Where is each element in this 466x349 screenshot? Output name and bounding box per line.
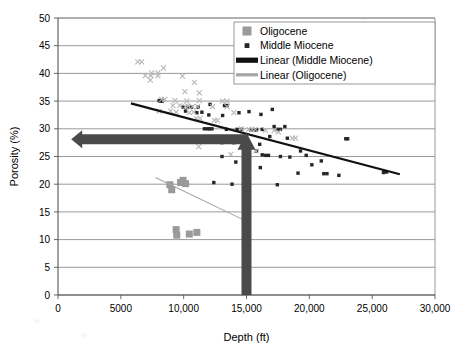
data-point — [288, 155, 291, 158]
data-point — [200, 110, 203, 113]
data-point — [231, 110, 236, 115]
data-point — [182, 89, 187, 94]
ytick-label-30: 30 — [39, 123, 51, 134]
legend-marker-1 — [245, 43, 250, 48]
data-point — [382, 171, 385, 174]
data-point — [186, 231, 193, 238]
xtick-label-10000: 10,000 — [168, 303, 199, 314]
data-point — [293, 136, 298, 141]
legend-label-0: Oligocene — [260, 25, 307, 37]
legend-label-2: Linear (Middle Miocene) — [260, 54, 373, 66]
data-point — [237, 111, 240, 114]
data-point — [173, 232, 180, 239]
data-point — [272, 125, 275, 128]
xtick-label-15000: 15,000 — [231, 303, 262, 314]
data-point — [261, 153, 264, 156]
data-point — [322, 172, 325, 175]
data-point — [247, 110, 250, 113]
data-point — [310, 163, 313, 166]
data-point — [197, 98, 202, 103]
ytick-label-20: 20 — [39, 179, 51, 190]
data-point — [168, 186, 175, 193]
ytick-label-50: 50 — [39, 13, 51, 24]
xtick-label-5000: 5000 — [110, 303, 133, 314]
legend-marker-2 — [236, 58, 258, 63]
data-point — [234, 160, 237, 163]
data-point — [197, 90, 202, 95]
data-point — [271, 108, 274, 111]
data-point — [170, 103, 175, 108]
ytick-label-0: 0 — [44, 290, 50, 301]
xtick-label-25000: 25,000 — [357, 303, 388, 314]
x-axis-title: Depth (ft) — [224, 331, 270, 343]
ytick-label-5: 5 — [44, 262, 50, 273]
data-point — [230, 183, 233, 186]
ytick-label-45: 45 — [39, 40, 51, 51]
data-point — [161, 65, 166, 70]
data-point — [325, 172, 328, 175]
legend-label-1: Middle Miocene — [260, 39, 334, 51]
data-point — [259, 166, 262, 169]
chart-figure: 051015202530354045500500010,00015,00020,… — [0, 0, 466, 349]
data-point — [221, 114, 224, 117]
legend-marker-0 — [243, 27, 252, 36]
data-point — [210, 127, 213, 130]
data-point — [320, 159, 323, 162]
data-point — [172, 98, 177, 103]
data-point — [215, 118, 220, 123]
data-point — [283, 125, 286, 128]
data-point — [212, 181, 215, 184]
data-point — [276, 183, 279, 186]
data-point — [346, 137, 349, 140]
data-point — [184, 109, 187, 112]
ytick-label-25: 25 — [39, 151, 51, 162]
data-point — [220, 155, 223, 158]
data-point — [139, 59, 144, 64]
xtick-label-30000: 30,000 — [420, 303, 451, 314]
data-point — [180, 74, 185, 79]
horizontal-arrow — [71, 130, 246, 148]
data-point — [207, 113, 210, 116]
ytick-label-35: 35 — [39, 96, 51, 107]
data-point — [155, 73, 160, 78]
data-point — [259, 113, 262, 116]
data-point — [203, 127, 206, 130]
data-point — [210, 104, 215, 109]
data-point — [196, 144, 201, 149]
y-axis-title: Porosity (%) — [8, 127, 20, 187]
xtick-label-20000: 20,000 — [294, 303, 325, 314]
ytick-label-10: 10 — [39, 234, 51, 245]
data-point — [182, 180, 189, 187]
data-point — [143, 73, 148, 78]
ytick-label-40: 40 — [39, 68, 51, 79]
data-point — [299, 149, 302, 152]
legend-marker-3 — [236, 73, 258, 76]
series-oligocene — [166, 177, 200, 239]
data-point — [304, 154, 307, 157]
vertical-arrow — [238, 133, 256, 295]
ytick-label-15: 15 — [39, 207, 51, 218]
legend-label-3: Linear (Oligocene) — [260, 69, 346, 81]
data-point — [258, 143, 261, 146]
data-point — [267, 154, 270, 157]
data-point — [264, 154, 267, 157]
data-point — [286, 137, 289, 140]
scatter-chart-canvas: 051015202530354045500500010,00015,00020,… — [0, 0, 466, 349]
data-point — [148, 78, 153, 83]
data-point — [268, 135, 271, 138]
data-point — [193, 229, 200, 236]
data-point — [279, 155, 282, 158]
data-point — [337, 174, 340, 177]
xtick-label-0: 0 — [55, 303, 61, 314]
data-point — [192, 80, 197, 85]
data-point — [228, 152, 233, 157]
data-point — [296, 171, 299, 174]
